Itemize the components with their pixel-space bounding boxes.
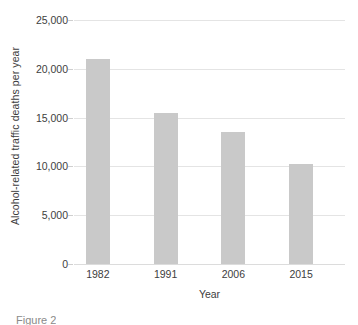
bar [86,59,110,264]
y-axis-tick-mark [68,118,73,119]
gridline [74,69,345,70]
figure-caption: Figure 2 [16,314,56,325]
y-axis-tick-label: 15,000 [6,112,68,124]
x-axis-ticks: 1982199120062015 [74,268,345,284]
gridline [74,20,345,21]
bar [221,132,245,264]
plot-area [74,20,345,264]
y-axis-tick-mark [68,20,73,21]
bar [289,164,313,264]
y-axis-tick-label: 5,000 [6,209,68,221]
x-axis-tick-label: 2015 [289,268,312,280]
gridline [74,118,345,119]
x-axis-tick-label: 2006 [222,268,245,280]
y-axis-tick-mark [68,69,73,70]
y-axis-tick-label: 25,000 [6,14,68,26]
y-axis-tick-label: 0 [6,258,68,270]
x-axis-tick-label: 1991 [154,268,177,280]
y-axis-tick-mark [68,215,73,216]
y-axis-tick-label: 10,000 [6,160,68,172]
y-axis-tick-mark [68,264,73,265]
y-axis-tick-label: 20,000 [6,63,68,75]
y-axis-tick-mark [68,166,73,167]
x-axis-title: Year [74,288,345,300]
bar [154,113,178,264]
x-axis-tick-label: 1982 [86,268,109,280]
bar-chart-figure: Alcohol-related traffic deaths per year … [0,0,358,325]
y-axis-ticks: 05,00010,00015,00020,00025,000 [0,20,68,264]
gridline [74,264,345,265]
